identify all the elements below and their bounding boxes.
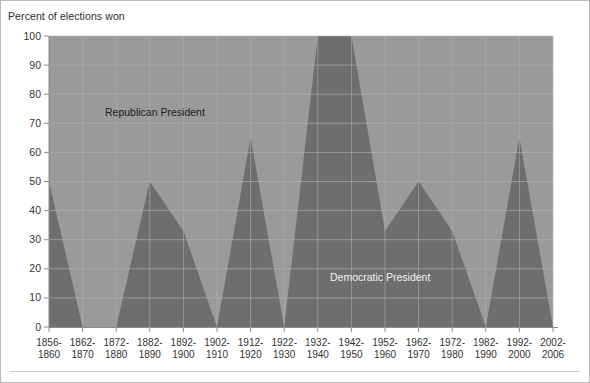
y-axis-ticks [44,36,49,327]
y-axis-tick-label: 40 [15,204,41,216]
republican-series-label: Republican President [105,106,205,118]
y-axis-tick-label: 50 [15,175,41,187]
plot-area: 0102030405060708090100 1856-18601862-187… [0,0,590,383]
x-axis-tick-label-line2: 2006 [531,349,575,361]
y-axis-tick-label: 70 [15,117,41,129]
x-axis-tick-label-line1: 2002- [531,337,575,349]
y-axis-tick-label: 100 [15,30,41,42]
y-axis-tick-label: 0 [15,321,41,333]
democratic-series-label: Democratic President [330,271,430,283]
y-axis-tick-label: 90 [15,59,41,71]
x-axis-tick-label: 2002-2006 [531,337,575,360]
y-axis-tick-label: 10 [15,291,41,303]
y-axis-tick-label: 80 [15,88,41,100]
chart-figure: Percent of elections won 01 [0,0,590,383]
y-axis-tick-label: 20 [15,262,41,274]
area-chart-svg [0,0,590,383]
y-axis-tick-label: 60 [15,146,41,158]
y-axis-tick-label: 30 [15,233,41,245]
